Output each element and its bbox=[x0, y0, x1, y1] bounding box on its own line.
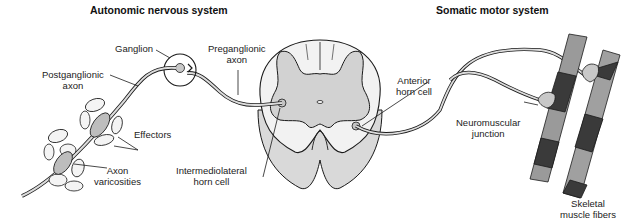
label-preganglionic-axon: Preganglionic axon bbox=[208, 43, 266, 65]
nervous-system-diagram bbox=[0, 0, 639, 223]
label-ganglion-text: Ganglion bbox=[115, 43, 153, 54]
label-effectors: Effectors bbox=[134, 129, 171, 140]
skeletal-muscle-fibers bbox=[530, 34, 620, 198]
ganglion bbox=[164, 54, 196, 86]
label-preganglionic-line2: axon bbox=[208, 54, 266, 65]
label-intermediolateral-line1: Intermediolateral bbox=[176, 165, 247, 176]
label-postganglionic-line1: Postganglionic bbox=[42, 69, 104, 80]
label-intermediolateral-line2: horn cell bbox=[176, 176, 247, 187]
label-intermediolateral-horn-cell: Intermediolateral horn cell bbox=[176, 165, 247, 187]
spinal-cord-cross-section bbox=[258, 40, 382, 189]
label-preganglionic-line1: Preganglionic bbox=[208, 43, 266, 54]
label-skeletal-line1: Skeletal bbox=[560, 198, 616, 209]
label-anterior-line2: horn cell bbox=[396, 86, 432, 97]
label-neuromuscular-line1: Neuromuscular bbox=[456, 117, 520, 128]
label-neuromuscular-junction: Neuromuscular junction bbox=[456, 117, 520, 139]
label-axon-varicosities: Axon varicosities bbox=[94, 165, 141, 187]
title-autonomic: Autonomic nervous system bbox=[90, 4, 228, 16]
label-skeletal-line2: muscle fibers bbox=[560, 209, 616, 220]
label-postganglionic-axon: Postganglionic axon bbox=[42, 69, 104, 91]
label-anterior-line1: Anterior bbox=[396, 75, 432, 86]
label-varicosities-line1: Axon bbox=[94, 165, 141, 176]
label-anterior-horn-cell: Anterior horn cell bbox=[396, 75, 432, 97]
label-effectors-text: Effectors bbox=[134, 129, 171, 140]
label-skeletal-muscle-fibers: Skeletal muscle fibers bbox=[560, 198, 616, 220]
label-neuromuscular-line2: junction bbox=[456, 128, 520, 139]
label-ganglion: Ganglion bbox=[115, 43, 153, 54]
label-postganglionic-line2: axon bbox=[42, 80, 104, 91]
label-varicosities-line2: varicosities bbox=[94, 176, 141, 187]
title-somatic: Somatic motor system bbox=[436, 4, 549, 16]
